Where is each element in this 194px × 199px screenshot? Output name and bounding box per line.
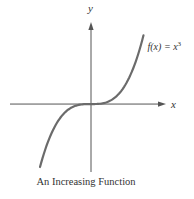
chart-caption: An Increasing Function — [36, 176, 136, 187]
function-label: f(x) = x3 — [148, 40, 182, 53]
series-line-cubic — [40, 35, 144, 167]
x-axis-label: x — [170, 98, 176, 110]
function-label-exponent: 3 — [178, 40, 182, 48]
chart: x y f(x) = x3 An Increasing Function — [0, 0, 194, 199]
function-label-text: f(x) = x — [148, 41, 179, 53]
y-axis-arrow-icon — [88, 22, 93, 30]
series-points — [40, 35, 144, 167]
x-axis-arrow-icon — [158, 101, 166, 106]
y-axis-label: y — [87, 2, 93, 14]
